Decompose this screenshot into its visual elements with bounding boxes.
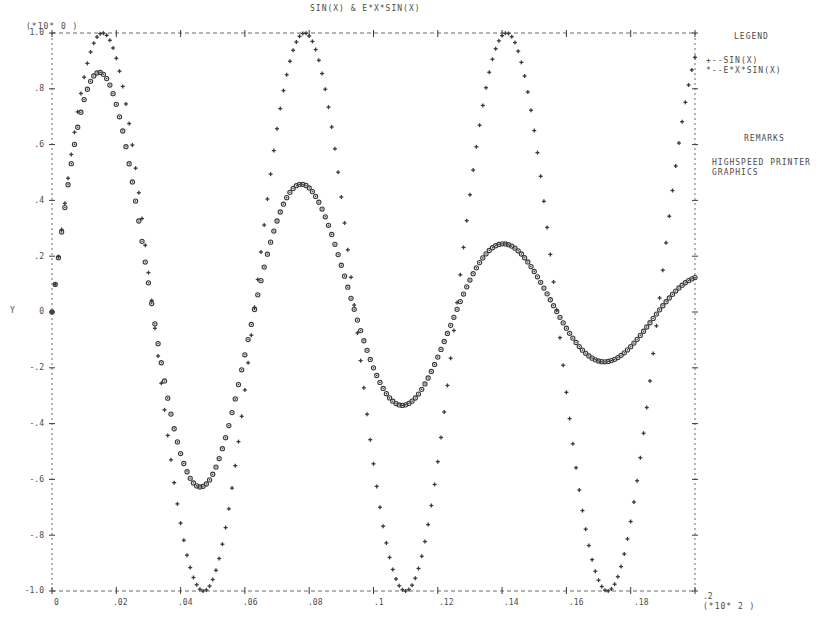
plot-area <box>0 0 829 617</box>
series-sin-markers <box>50 31 697 593</box>
plot-frame <box>49 30 698 594</box>
series-damped-sin-markers <box>50 70 697 489</box>
